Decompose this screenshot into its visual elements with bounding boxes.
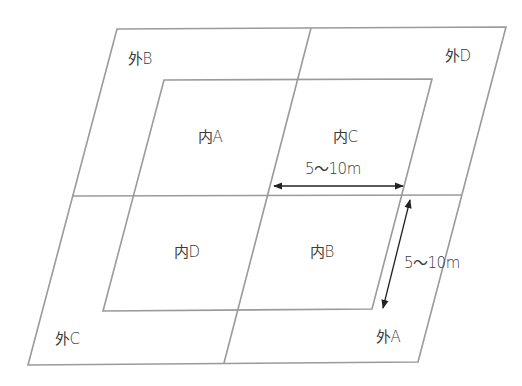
label-outer-d: 外D	[445, 49, 471, 64]
horizontal-divider	[73, 195, 462, 196]
diagram-lines	[0, 0, 522, 386]
label-outer-b: 外B	[128, 52, 152, 67]
label-outer-c: 外C	[55, 332, 79, 347]
label-inner-d: 内D	[174, 245, 200, 260]
label-horizontal-dimension: 5〜10m	[305, 162, 361, 177]
label-inner-a: 内A	[198, 130, 222, 145]
label-inner-c: 内C	[333, 130, 357, 145]
label-diagonal-dimension: 5〜10m	[404, 256, 460, 271]
label-outer-a: 外A	[376, 330, 400, 345]
plot-layout-diagram: 外B 外D 外C 外A 内A 内C 内D 内B 5〜10m 5〜10m	[0, 0, 522, 386]
label-inner-b: 内B	[310, 245, 334, 260]
